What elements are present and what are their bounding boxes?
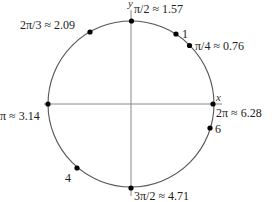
point-one: 1: [173, 27, 188, 41]
point-four: 4: [65, 165, 80, 185]
unit-circle-diagram: x y π/2 ≈ 1.57 1 π/4 ≈ 0.76 2π/3 ≈ 2.09 …: [0, 0, 272, 202]
label-pi-over-2: π/2 ≈ 1.57: [134, 2, 183, 16]
point-pi: π ≈ 3.14: [0, 101, 51, 123]
label-three-pi-over-2: 3π/2 ≈ 4.71: [134, 189, 189, 202]
point-pi-over-4: π/4 ≈ 0.76: [187, 39, 244, 53]
label-one: 1: [182, 27, 188, 41]
label-pi: π ≈ 3.14: [0, 109, 40, 123]
point-pi-over-2: π/2 ≈ 1.57: [129, 2, 183, 24]
label-pi-over-4: π/4 ≈ 0.76: [195, 39, 244, 53]
x-axis-label: x: [215, 91, 221, 103]
y-axis-label: y: [127, 0, 133, 9]
label-four: 4: [65, 171, 71, 185]
point-three-pi-over-2: 3π/2 ≈ 4.71: [128, 185, 189, 202]
point-two-pi-over-3: 2π/3 ≈ 2.09: [20, 18, 93, 35]
label-two-pi-over-3: 2π/3 ≈ 2.09: [20, 18, 75, 32]
label-six: 6: [215, 122, 221, 136]
point-six: 6: [207, 122, 221, 136]
label-two-pi: 2π ≈ 6.28: [216, 106, 262, 120]
